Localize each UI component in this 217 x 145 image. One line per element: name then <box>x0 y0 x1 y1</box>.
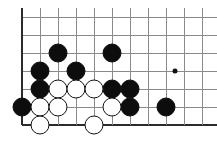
white-stone <box>67 80 86 99</box>
grid-line-vertical-9 <box>184 8 185 125</box>
white-stone <box>31 116 50 135</box>
white-stone <box>49 80 68 99</box>
black-stone <box>121 80 140 99</box>
grid-line-horizontal-6 <box>22 124 217 126</box>
white-stone <box>103 98 122 117</box>
white-stone <box>85 80 104 99</box>
black-stone <box>13 98 32 117</box>
grid-line-horizontal-1 <box>22 35 217 36</box>
black-stone <box>103 44 122 63</box>
black-stone <box>49 44 68 63</box>
black-stone <box>31 62 50 81</box>
grid-line-vertical-7 <box>148 8 149 125</box>
go-board-diagram <box>0 0 217 145</box>
black-stone <box>31 80 50 99</box>
black-stone <box>67 62 86 81</box>
black-stone <box>121 98 140 117</box>
white-stone <box>49 98 68 117</box>
grid-line-vertical-4 <box>94 8 95 125</box>
grid-line-horizontal-3 <box>22 71 217 72</box>
star-point-icon-0 <box>173 69 178 74</box>
grid-line-horizontal-0 <box>22 17 217 18</box>
black-stone <box>157 98 176 117</box>
white-stone <box>85 116 104 135</box>
black-stone <box>103 80 122 99</box>
grid-line-vertical-10 <box>202 8 203 125</box>
white-stone <box>31 98 50 117</box>
